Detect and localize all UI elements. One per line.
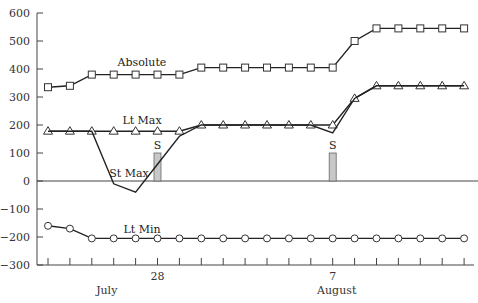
triangle-marker <box>394 81 403 89</box>
circle-marker <box>417 235 424 242</box>
circle-marker <box>198 235 205 242</box>
month-label: August <box>316 284 357 297</box>
square-marker <box>88 71 95 78</box>
series-label-lt-min: Lt Min <box>123 223 160 236</box>
s-bar-label: S <box>154 139 162 152</box>
y-tick-label: 600 <box>9 7 30 20</box>
triangle-marker <box>416 81 425 89</box>
triangle-marker <box>284 121 293 129</box>
y-tick-label: 400 <box>9 63 30 76</box>
square-marker <box>417 25 424 32</box>
series-label-absolute: Absolute <box>117 56 167 69</box>
square-marker <box>220 64 227 71</box>
square-marker <box>395 25 402 32</box>
triangle-marker <box>109 127 118 135</box>
series-lines <box>44 25 469 242</box>
circle-marker <box>285 235 292 242</box>
square-marker <box>373 25 380 32</box>
y-tick-label: 200 <box>9 119 30 132</box>
triangle-marker <box>153 127 162 135</box>
circle-marker <box>329 235 336 242</box>
circle-marker <box>395 235 402 242</box>
triangle-marker <box>460 81 469 89</box>
triangle-marker <box>306 121 315 129</box>
circle-marker <box>461 235 468 242</box>
month-label: July <box>95 284 118 297</box>
square-marker <box>264 64 271 71</box>
square-marker <box>66 82 73 89</box>
y-tick-label: 100 <box>9 147 30 160</box>
s-bar <box>329 153 336 181</box>
y-tick-label: −300 <box>0 259 30 272</box>
circle-marker <box>242 235 249 242</box>
circle-marker <box>439 235 446 242</box>
triangle-marker <box>65 127 74 135</box>
triangle-marker <box>219 121 228 129</box>
triangle-marker <box>131 127 140 135</box>
square-marker <box>110 71 117 78</box>
circle-marker <box>66 225 73 232</box>
y-tick-label: 0 <box>23 175 30 188</box>
square-marker <box>45 84 52 91</box>
circle-marker <box>220 235 227 242</box>
triangle-marker <box>44 127 53 135</box>
square-marker <box>198 64 205 71</box>
s-bars: SS <box>154 139 337 181</box>
series-label-lt-max: Lt Max <box>122 114 162 127</box>
y-tick-label: −100 <box>0 203 30 216</box>
square-marker <box>242 64 249 71</box>
triangle-marker <box>241 121 250 129</box>
square-marker <box>132 71 139 78</box>
circle-marker <box>264 235 271 242</box>
circle-marker <box>45 222 52 229</box>
triangle-marker <box>263 121 272 129</box>
square-marker <box>461 25 468 32</box>
y-tick-label: 300 <box>9 91 30 104</box>
square-marker <box>329 64 336 71</box>
x-tick-label: 28 <box>151 270 165 283</box>
square-marker <box>351 38 358 45</box>
circle-marker <box>351 235 358 242</box>
circle-marker <box>373 235 380 242</box>
triangle-marker <box>87 127 96 135</box>
y-axis: 6005004003002001000−100−200−300 <box>0 7 478 272</box>
circle-marker <box>110 235 117 242</box>
circle-marker <box>88 235 95 242</box>
y-tick-label: −200 <box>0 231 30 244</box>
x-axis: 287JulyAugust <box>37 258 474 297</box>
square-marker <box>176 71 183 78</box>
circle-marker <box>307 235 314 242</box>
y-tick-label: 500 <box>9 35 30 48</box>
line-chart: 6005004003002001000−100−200−300 287JulyA… <box>0 0 478 303</box>
square-marker <box>285 64 292 71</box>
square-marker <box>307 64 314 71</box>
square-marker <box>154 71 161 78</box>
circle-marker <box>176 235 183 242</box>
s-bar-label: S <box>329 139 337 152</box>
x-tick-label: 7 <box>329 270 336 283</box>
series-label-st-max: St Max <box>109 167 149 180</box>
square-marker <box>439 25 446 32</box>
triangle-marker <box>438 81 447 89</box>
